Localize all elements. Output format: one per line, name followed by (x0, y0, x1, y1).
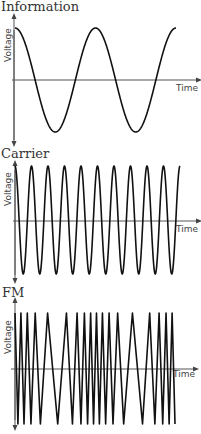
y-axis-label: Voltage (3, 320, 13, 354)
carrier-panel: Carrier Voltage Time (1, 146, 199, 281)
panel-title: FM (2, 285, 24, 300)
panel-title: Carrier (1, 146, 50, 161)
fm-panel: FM Voltage Time (2, 285, 196, 428)
x-axis-label: Time (175, 224, 198, 234)
carrier-wave (15, 166, 180, 274)
x-axis-label: Time (175, 83, 198, 93)
x-axis-label: Time (172, 369, 195, 379)
fm-modulation-diagram: Information Voltage Time Carrier Voltage… (0, 0, 201, 434)
y-axis-label: Voltage (3, 172, 13, 206)
y-axis-label: Voltage (3, 28, 13, 62)
information-panel: Information Voltage Time (1, 0, 199, 144)
panel-title: Information (1, 0, 80, 14)
